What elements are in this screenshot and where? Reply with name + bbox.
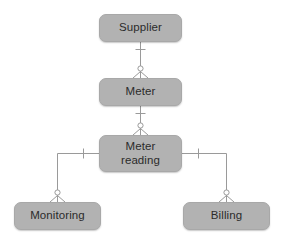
entity-supplier[interactable]: Supplier — [99, 14, 182, 42]
entity-label-meter-reading: Meter reading — [117, 140, 164, 167]
cardinality-zero-circle — [138, 66, 143, 71]
entity-billing[interactable]: Billing — [183, 202, 270, 230]
connector-supplier-meter — [133, 42, 148, 78]
entity-meter[interactable]: Meter — [99, 78, 182, 106]
connector-meter-reading-billing — [182, 149, 234, 203]
entity-label-monitoring: Monitoring — [26, 209, 89, 223]
entity-meter-reading[interactable]: Meter reading — [99, 135, 182, 172]
entity-label-billing: Billing — [207, 209, 246, 223]
entity-label-meter: Meter — [122, 85, 160, 99]
cardinality-zero-circle — [138, 123, 143, 128]
cardinality-zero-circle — [55, 190, 60, 195]
connector-meter-reading-monitoring — [50, 149, 99, 203]
entity-monitoring[interactable]: Monitoring — [14, 202, 101, 230]
erd-diagram: Supplier Meter Meter reading Monitoring … — [0, 0, 281, 242]
cardinality-zero-circle — [224, 190, 229, 195]
entity-label-supplier: Supplier — [115, 21, 166, 35]
connector-meter-meter-reading — [133, 106, 148, 135]
